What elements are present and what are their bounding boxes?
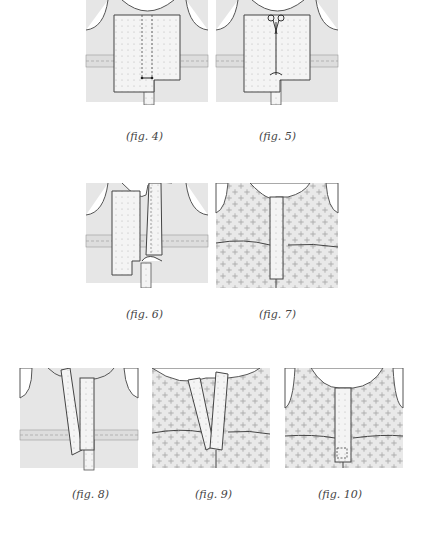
caption-fig-6: (fig. 6) (126, 308, 163, 321)
caption-fig-10: (fig. 10) (318, 488, 362, 501)
caption-fig-8: (fig. 8) (72, 488, 109, 501)
garment-illustration (214, 0, 344, 105)
figure-8 (18, 368, 143, 473)
figure-6 (84, 183, 214, 288)
caption-fig-9: (fig. 9) (195, 488, 232, 501)
garment-illustration (214, 183, 344, 288)
caption-fig-5: (fig. 5) (259, 130, 296, 143)
figure-9 (150, 368, 275, 473)
figure-4 (84, 0, 214, 105)
garment-illustration (150, 368, 275, 473)
figure-10 (283, 368, 408, 473)
figure-7 (214, 183, 344, 288)
figure-5 (214, 0, 344, 105)
garment-illustration (283, 368, 408, 473)
caption-fig-7: (fig. 7) (259, 308, 296, 321)
garment-illustration (84, 0, 214, 105)
caption-fig-4: (fig. 4) (126, 130, 163, 143)
garment-illustration (84, 183, 214, 288)
garment-illustration (18, 368, 143, 473)
